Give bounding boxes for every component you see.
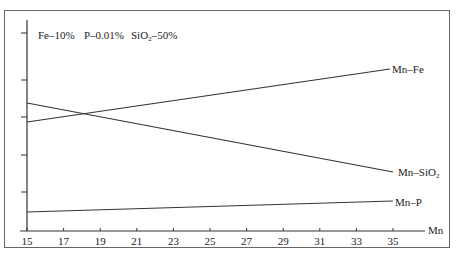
annotation-p: P–0.01% [84, 29, 124, 41]
series-mn-p [27, 201, 393, 212]
line-chart: 15 17 19 21 23 25 27 29 31 33 35 Mn Fe–1… [0, 0, 457, 261]
x-tick-label: 33 [351, 235, 363, 247]
x-tick-labels: 15 17 19 21 23 25 27 29 31 33 35 [22, 235, 400, 247]
y-ticks [21, 33, 27, 192]
x-tick-label: 29 [278, 235, 290, 247]
x-tick-label: 17 [58, 235, 70, 247]
annotation-sio2: SiO2–50% [131, 29, 177, 43]
x-tick-label: 15 [22, 235, 34, 247]
x-tick-label: 25 [205, 235, 217, 247]
x-tick-label: 21 [131, 235, 142, 247]
x-tick-label: 31 [314, 235, 325, 247]
x-axis-label: Mn [428, 224, 444, 236]
series-mn-fe [27, 69, 390, 122]
annotation-fe: Fe–10% [38, 29, 75, 41]
label-mn-sio2: Mn–SiO2 [398, 166, 440, 180]
label-mn-p: Mn–P [395, 196, 422, 208]
x-tick-label: 23 [168, 235, 180, 247]
series-mn-sio2 [27, 103, 393, 172]
x-tick-label: 35 [388, 235, 400, 247]
x-tick-label: 27 [241, 235, 253, 247]
x-tick-label: 19 [95, 235, 107, 247]
label-mn-fe: Mn–Fe [392, 63, 424, 75]
